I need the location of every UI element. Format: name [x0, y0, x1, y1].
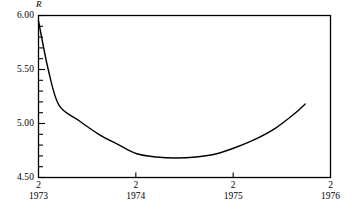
plot-frame	[39, 16, 331, 178]
data-series-line	[39, 21, 306, 158]
chart-figure: R 6.00 5.50 5.00 4.50 2 1973 2 1974 2 19…	[0, 0, 352, 212]
plot-area	[0, 0, 352, 212]
x-axis-ticks	[136, 173, 233, 178]
